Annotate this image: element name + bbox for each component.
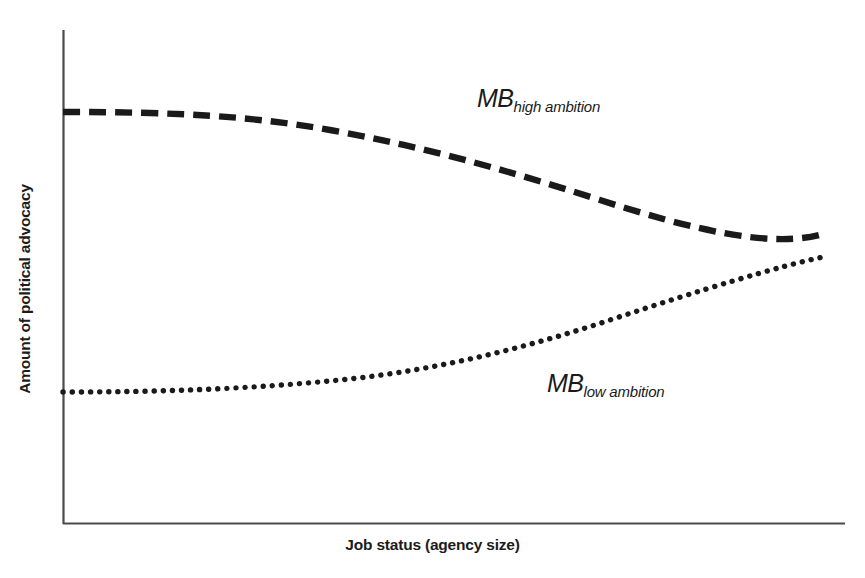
- curve-label-low-subscript: low ambition: [584, 383, 665, 400]
- curve-label-high-subscript: high ambition: [514, 98, 601, 115]
- curve-label-high-base: MB: [477, 84, 514, 112]
- curve-label-low-base: MB: [547, 369, 584, 397]
- chart-plot-area: [0, 0, 865, 578]
- series-low-ambition-curve: [63, 257, 823, 392]
- y-axis-title: Amount of political advocacy: [8, 0, 42, 578]
- curve-label-low-ambition: MBlow ambition: [547, 369, 664, 398]
- chart-figure: MBhigh ambition MBlow ambition Job statu…: [0, 0, 865, 578]
- series-high-ambition-curve: [63, 112, 826, 239]
- curve-label-high-ambition: MBhigh ambition: [477, 84, 600, 113]
- x-axis-title: Job status (agency size): [0, 536, 865, 554]
